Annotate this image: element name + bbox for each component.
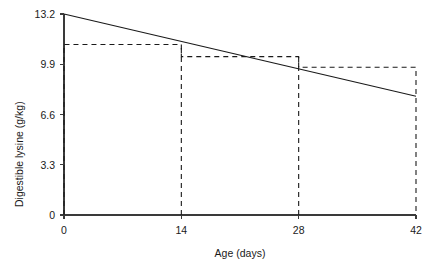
y-tick-label: 0 [0,210,55,221]
line-series-path [64,14,416,96]
y-tick-label: 9.9 [0,59,55,70]
y-tick-label: 6.6 [0,110,55,121]
y-tick-label: 3.3 [0,160,55,171]
y-axis-title: Digestible lysine (g/kg) [14,101,25,207]
x-axis-title: Age (days) [34,248,429,259]
x-tick-label: 28 [269,225,329,236]
chart-container: 03.36.69.913.2 0142842 Age (days) Digest… [0,0,429,270]
x-tick-label: 14 [151,225,211,236]
step-series-path [64,44,416,215]
x-tick-label: 0 [34,225,94,236]
requirement-line [64,14,416,96]
step-line [64,44,416,215]
y-tick-label: 13.2 [0,9,55,20]
x-tick-label: 42 [386,225,429,236]
axes-group [64,14,416,215]
